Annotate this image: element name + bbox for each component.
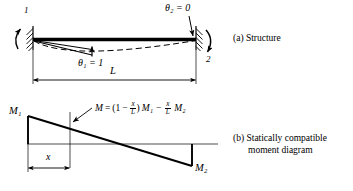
formula-frac1-denominator: L — [130, 108, 136, 116]
formula-leader-line — [73, 108, 92, 122]
figure-page: 1 2 θ₂ = 0 θ₁ = 1 L (a) Structure M₁ M₂ … — [0, 0, 353, 191]
deflected-shape-dashed — [34, 41, 196, 52]
formula-fraction-2: xL — [165, 101, 171, 117]
node-label-1: 1 — [24, 6, 29, 15]
formula-term-m2: M₂ — [171, 103, 185, 113]
moment-label-m1: M₁ — [9, 106, 21, 117]
formula-term-m1: M₁ — [140, 103, 153, 113]
theta2-label: θ₂ = 0 — [165, 3, 190, 13]
right-fixed-support — [196, 26, 203, 51]
formula-frac2-denominator: L — [165, 108, 171, 116]
node1-rotation-arrow — [16, 29, 21, 49]
theta2-leader-line — [189, 16, 193, 36]
figure-drawing — [0, 0, 353, 191]
node-label-2: 2 — [206, 55, 211, 64]
formula-frac1-numerator: x — [130, 101, 136, 108]
caption-part-b-line1: (b) Statically compatible — [233, 133, 327, 145]
formula-minus-2: − — [153, 103, 164, 113]
span-length-label: L — [110, 66, 116, 77]
node2-rotation-arrow — [206, 30, 211, 52]
distance-label-x: x — [46, 152, 50, 162]
moment-formula: M=(1−xL)M₁−xLM₂ — [95, 101, 186, 117]
moment-label-m2: M₂ — [195, 163, 207, 174]
caption-part-a: (a) Structure — [233, 33, 281, 45]
formula-frac2-numerator: x — [165, 101, 171, 108]
formula-minus-1: − — [120, 103, 129, 113]
theta1-label: θ₁ = 1 — [78, 58, 103, 68]
caption-part-b-line2: moment diagram — [248, 145, 313, 157]
formula-lhs: M — [95, 103, 103, 113]
left-fixed-support — [27, 26, 34, 51]
moment-slope-line — [28, 116, 192, 166]
formula-fraction-1: xL — [130, 101, 136, 117]
formula-equals: = — [103, 103, 112, 113]
